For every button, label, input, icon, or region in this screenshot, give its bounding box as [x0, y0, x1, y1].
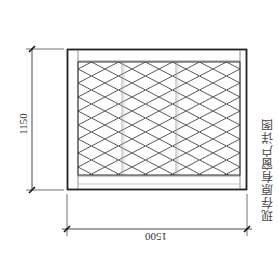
window-detail-drawing	[0, 0, 279, 259]
width-dimension-label: 1500	[145, 231, 167, 243]
diamond-mesh-grille	[78, 62, 240, 175]
height-dimension-label: 1150	[17, 113, 29, 135]
width-dimension	[62, 194, 252, 236]
drawing-title: 现存原有窗户详图	[259, 118, 276, 222]
height-dimension	[26, 46, 64, 193]
